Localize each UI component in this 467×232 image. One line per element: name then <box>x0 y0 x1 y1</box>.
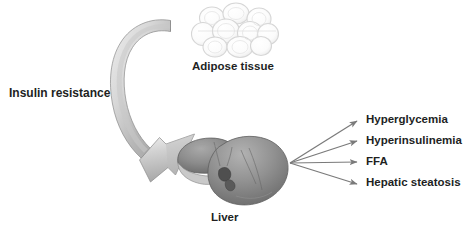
arrow-to-hyperglycemia <box>290 121 357 163</box>
liver-label: Liver <box>211 212 239 224</box>
liver-output-arrows <box>290 121 357 184</box>
output-label-hepatic-steatosis: Hepatic steatosis <box>366 177 461 189</box>
output-label-hyperglycemia: Hyperglycemia <box>366 114 448 126</box>
adipose-tissue-label: Adipose tissue <box>192 61 274 73</box>
adipose-tissue-illustration <box>192 3 279 58</box>
arrow-to-hepatic-steatosis <box>290 163 357 184</box>
arrow-to-hyperinsulinemia <box>290 141 357 163</box>
liver-illustration <box>178 136 288 205</box>
output-label-ffa: FFA <box>366 156 388 168</box>
insulin-resistance-label: Insulin resistance <box>9 87 110 99</box>
output-label-hyperinsulinemia: Hyperinsulinemia <box>366 135 462 147</box>
insulin-resistance-diagram: Insulin resistance Adipose tissue Liver … <box>0 0 467 232</box>
arrow-to-ffa <box>290 162 357 163</box>
